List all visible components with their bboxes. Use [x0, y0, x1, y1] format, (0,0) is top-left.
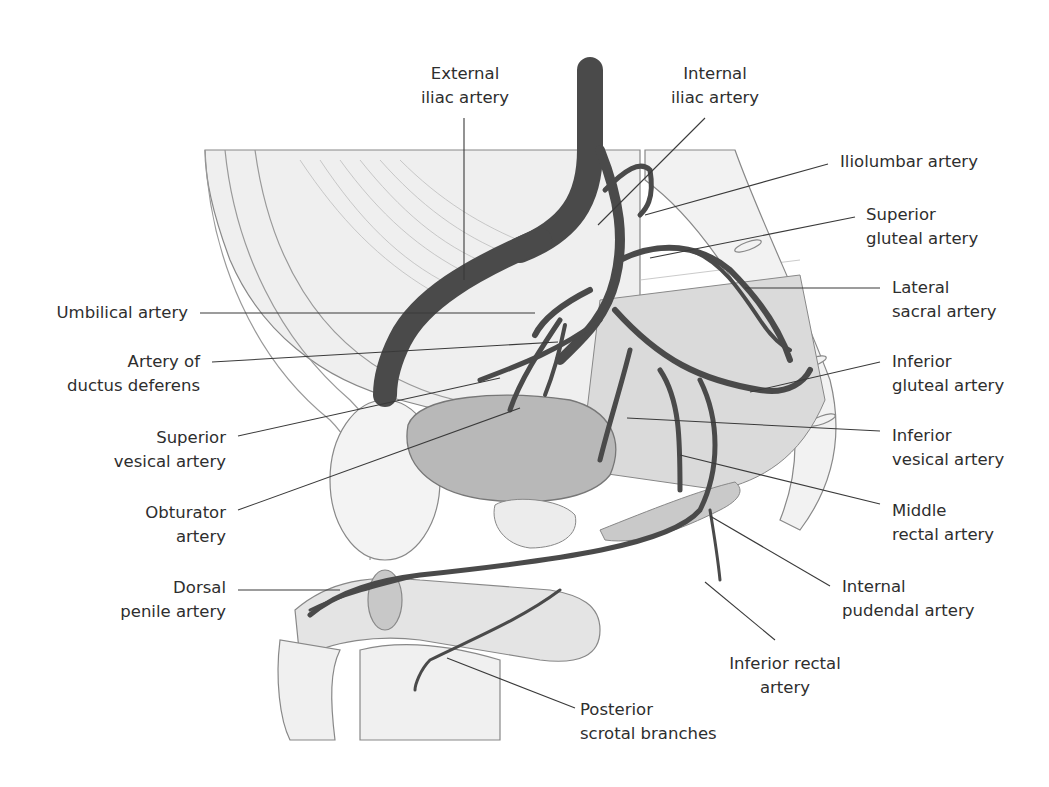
label-superior-vesical-artery: Superior vesical artery: [20, 426, 226, 474]
label-posterior-scrotal-branches: Posterior scrotal branches: [580, 698, 717, 746]
label-iliolumbar-artery: Iliolumbar artery: [840, 150, 978, 174]
label-middle-rectal-artery: Middle rectal artery: [892, 499, 994, 547]
label-external-iliac-artery: External iliac artery: [405, 62, 525, 110]
label-internal-pudendal-artery: Internal pudendal artery: [842, 575, 975, 623]
label-superior-gluteal-artery: Superior gluteal artery: [866, 203, 978, 251]
label-internal-iliac-artery: Internal iliac artery: [655, 62, 775, 110]
label-inferior-rectal-artery: Inferior rectal artery: [715, 652, 855, 700]
label-obturator-artery: Obturator artery: [20, 501, 226, 549]
prostate: [494, 499, 576, 548]
label-umbilical-artery: Umbilical artery: [20, 301, 188, 325]
label-dorsal-penile-artery: Dorsal penile artery: [20, 576, 226, 624]
label-lateral-sacral-artery: Lateral sacral artery: [892, 276, 997, 324]
label-artery-of-ductus-deferens: Artery of ductus deferens: [20, 350, 200, 398]
label-inferior-vesical-artery: Inferior vesical artery: [892, 424, 1004, 472]
label-inferior-gluteal-artery: Inferior gluteal artery: [892, 350, 1004, 398]
